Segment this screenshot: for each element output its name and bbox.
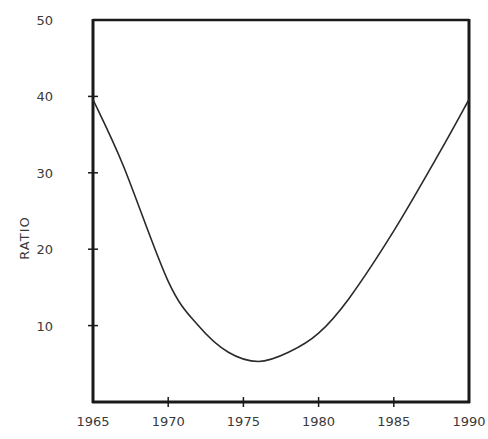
y-axis-ticks: 1020304050 bbox=[36, 13, 98, 334]
x-tick-label: 1980 bbox=[302, 414, 335, 429]
y-axis-label: RATIO bbox=[17, 216, 32, 259]
y-tick-label: 10 bbox=[36, 319, 53, 334]
x-tick-label: 1970 bbox=[152, 414, 185, 429]
x-tick-label: 1975 bbox=[227, 414, 260, 429]
x-tick-label: 1990 bbox=[452, 414, 485, 429]
y-tick-label: 20 bbox=[36, 242, 53, 257]
ratio-curve bbox=[93, 100, 469, 362]
y-tick-label: 30 bbox=[36, 166, 53, 181]
y-tick-label: 50 bbox=[36, 13, 53, 28]
y-tick-label: 40 bbox=[36, 89, 53, 104]
line-chart: 1020304050 196519701975198019851990 RATI… bbox=[0, 0, 488, 439]
x-tick-label: 1985 bbox=[377, 414, 410, 429]
plot-frame bbox=[92, 19, 470, 403]
x-tick-label: 1965 bbox=[76, 414, 109, 429]
